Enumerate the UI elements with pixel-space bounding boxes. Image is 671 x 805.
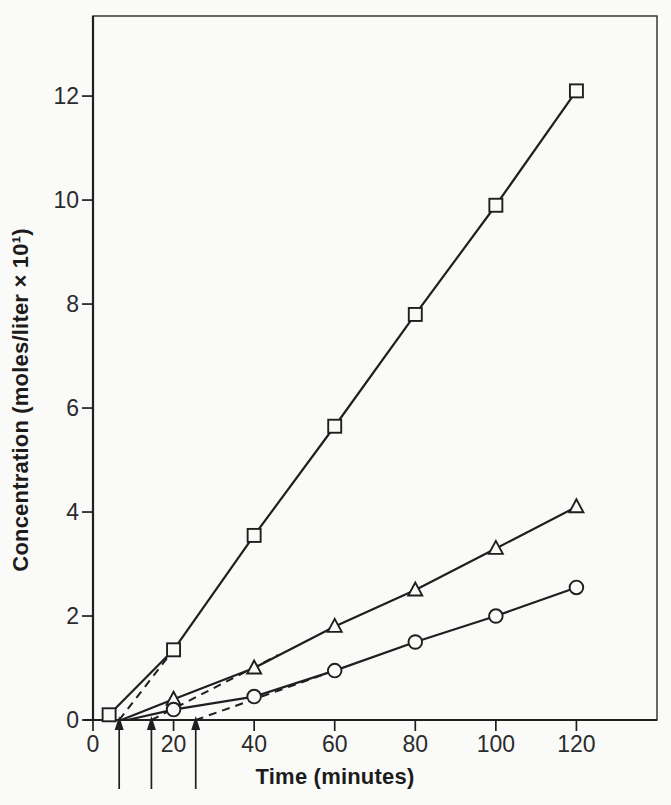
square-marker xyxy=(570,84,583,97)
circle-marker xyxy=(247,690,261,704)
y-tick-label: 8 xyxy=(66,291,79,317)
dashed-extrapolations xyxy=(119,650,335,720)
series-line-squares xyxy=(109,91,576,715)
y-tick-label: 0 xyxy=(66,707,79,733)
series-markers xyxy=(103,84,584,721)
square-marker xyxy=(167,643,180,656)
square-marker xyxy=(328,420,341,433)
y-axis: 024681012 xyxy=(53,83,93,733)
circle-marker xyxy=(328,664,342,678)
y-tick-label: 2 xyxy=(66,603,79,629)
x-axis: 020406080100120 xyxy=(87,720,596,757)
x-tick-label: 20 xyxy=(161,731,187,757)
x-tick-label: 120 xyxy=(557,731,595,757)
plot-frame xyxy=(84,16,657,721)
series-line-circles xyxy=(127,587,576,720)
y-axis-title: Concentration (moles/liter × 10¹) xyxy=(8,228,33,571)
square-marker xyxy=(103,708,116,721)
lag-time-arrows xyxy=(115,716,201,789)
y-tick-label: 4 xyxy=(66,499,79,525)
plot-border xyxy=(93,16,657,720)
x-tick-label: 60 xyxy=(322,731,348,757)
square-marker xyxy=(489,199,502,212)
square-marker xyxy=(409,308,422,321)
triangle-marker xyxy=(408,583,422,596)
triangle-marker xyxy=(247,661,261,674)
y-tick-label: 10 xyxy=(53,187,79,213)
circle-marker xyxy=(489,609,503,623)
kinetics-figure: 020406080100120 024681012 Time (minutes)… xyxy=(0,0,671,805)
x-tick-label: 100 xyxy=(477,731,515,757)
triangle-marker xyxy=(328,619,342,632)
series-line-triangles xyxy=(121,507,576,720)
square-marker xyxy=(248,529,261,542)
y-tick-label: 12 xyxy=(53,83,79,109)
circle-marker xyxy=(167,703,181,717)
x-tick-label: 80 xyxy=(402,731,428,757)
kinetics-chart-canvas: 020406080100120 024681012 Time (minutes)… xyxy=(0,0,671,805)
triangle-marker xyxy=(489,541,503,554)
series-lines xyxy=(109,91,576,720)
x-tick-label: 0 xyxy=(87,731,100,757)
x-axis-title: Time (minutes) xyxy=(256,764,415,789)
triangle-marker xyxy=(569,499,583,512)
circle-marker xyxy=(408,635,422,649)
circle-marker xyxy=(570,581,584,595)
y-tick-label: 6 xyxy=(66,395,79,421)
x-tick-label: 40 xyxy=(241,731,267,757)
